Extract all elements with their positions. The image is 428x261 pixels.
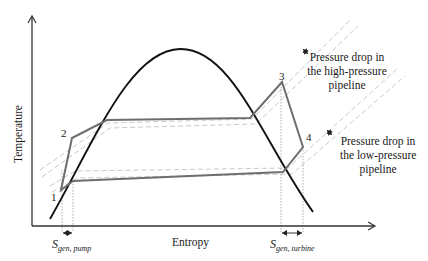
turbine-entropy-subscript: gen, turbine (276, 244, 315, 253)
low-pressure-line-2: the low-pressure (340, 148, 416, 162)
high-pressure-drop-annotation: Pressure drop in the high-pressure pipel… (307, 50, 387, 92)
saturation-dome (50, 49, 313, 219)
high-pressure-line-3: pipeline (307, 78, 387, 92)
turbine-entropy-label: Sgen, turbine (270, 237, 315, 253)
high-pressure-isobars (40, 20, 358, 177)
pump-entropy-subscript: gen, pump (58, 244, 91, 253)
state-label-3: 3 (279, 70, 285, 82)
t-s-diagram: 1 2 3 4 Entropy Temperature Sgen, pump S… (0, 0, 428, 261)
x-axis-label: Entropy (172, 236, 209, 249)
pump-entropy-label: Sgen, pump (52, 237, 91, 253)
low-pressure-line-1: Pressure drop in (340, 134, 416, 148)
state-label-4: 4 (306, 131, 312, 143)
low-pressure-line-3: pipeline (340, 162, 416, 176)
high-pressure-line-1: Pressure drop in (307, 50, 387, 64)
high-pressure-line-2: the high-pressure (307, 64, 387, 78)
state-label-1: 1 (51, 191, 57, 203)
entropy-guides (62, 84, 303, 232)
state-label-2: 2 (61, 127, 67, 139)
y-axis-label: Temperature (12, 105, 25, 163)
low-pressure-drop-annotation: Pressure drop in the low-pressure pipeli… (340, 134, 416, 176)
isobar-high-lower (42, 26, 358, 177)
